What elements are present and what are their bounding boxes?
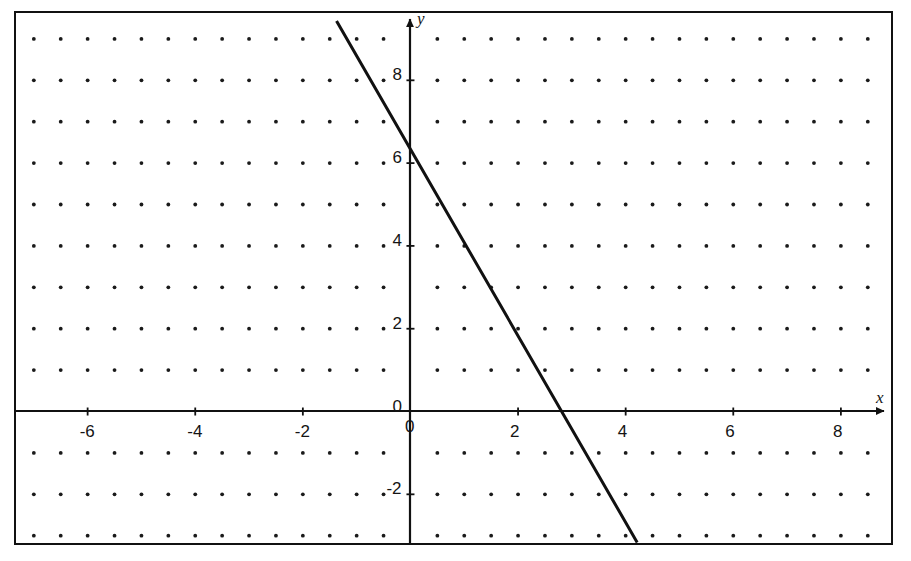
grid-dot	[839, 368, 843, 372]
grid-dot	[328, 37, 332, 41]
grid-dot	[839, 161, 843, 165]
grid-dot	[247, 534, 251, 538]
grid-dot	[274, 78, 278, 82]
grid-dot	[651, 78, 655, 82]
grid-dot	[543, 534, 547, 538]
grid-dot	[220, 78, 224, 82]
grid-dot	[785, 327, 789, 331]
grid-dot	[328, 120, 332, 124]
grid-dot	[59, 492, 63, 496]
grid-dot	[274, 327, 278, 331]
grid-dot	[543, 244, 547, 248]
grid-dot	[489, 203, 493, 207]
grid-dot	[731, 451, 735, 455]
grid-dot	[651, 368, 655, 372]
grid-dot	[435, 285, 439, 289]
grid-dot	[489, 451, 493, 455]
grid-dot	[193, 37, 197, 41]
grid-dot	[651, 244, 655, 248]
grid-dot	[113, 203, 117, 207]
grid-dot	[624, 78, 628, 82]
grid-dot	[140, 451, 144, 455]
grid-dot	[301, 120, 305, 124]
grid-dot	[113, 78, 117, 82]
grid-dot	[516, 78, 520, 82]
grid-dot	[812, 327, 816, 331]
grid-dot	[624, 244, 628, 248]
grid-dot	[435, 161, 439, 165]
grid-dot	[731, 203, 735, 207]
grid-dot	[704, 534, 708, 538]
grid-dot	[785, 451, 789, 455]
grid-dot	[86, 327, 90, 331]
grid-dot	[220, 37, 224, 41]
grid-dot	[516, 161, 520, 165]
grid-dot	[193, 161, 197, 165]
grid-dot	[570, 492, 574, 496]
grid-dot	[678, 327, 682, 331]
grid-dot	[32, 451, 36, 455]
grid-dot	[113, 161, 117, 165]
plotted-line-series	[337, 22, 636, 541]
grid-dot	[570, 244, 574, 248]
grid-dot	[32, 285, 36, 289]
grid-dot	[32, 78, 36, 82]
grid-dot	[59, 78, 63, 82]
grid-dot	[113, 37, 117, 41]
grid-dot	[382, 37, 386, 41]
grid-dot	[32, 327, 36, 331]
grid-dot	[59, 120, 63, 124]
grid-dot	[435, 203, 439, 207]
grid-dot	[597, 534, 601, 538]
grid-dot	[597, 78, 601, 82]
grid-dot	[435, 78, 439, 82]
grid-dot	[274, 534, 278, 538]
grid-dot	[651, 492, 655, 496]
grid-dot	[704, 37, 708, 41]
x-tick-label: -2	[295, 423, 310, 440]
grid-dot	[166, 78, 170, 82]
grid-dot	[59, 161, 63, 165]
grid-dot	[301, 78, 305, 82]
x-tick-label: 2	[510, 423, 519, 440]
grid-dot	[543, 78, 547, 82]
grid-dot	[624, 285, 628, 289]
grid-dot	[328, 285, 332, 289]
grid-dot	[59, 327, 63, 331]
grid-dot	[624, 327, 628, 331]
grid-dot	[382, 120, 386, 124]
grid-dot	[140, 161, 144, 165]
grid-dot	[651, 285, 655, 289]
grid-dot	[812, 78, 816, 82]
grid-dot	[839, 203, 843, 207]
grid-dot	[462, 78, 466, 82]
grid-dot	[193, 203, 197, 207]
grid-dot	[678, 37, 682, 41]
grid-dot	[86, 534, 90, 538]
grid-dot	[543, 368, 547, 372]
grid-dot	[247, 327, 251, 331]
grid-dot	[839, 37, 843, 41]
graph-canvas	[0, 0, 911, 561]
grid-dot	[678, 492, 682, 496]
grid-dot	[193, 78, 197, 82]
grid-dot	[731, 120, 735, 124]
grid-dot	[785, 203, 789, 207]
grid-dot	[166, 244, 170, 248]
grid-dot	[462, 451, 466, 455]
grid-dot	[86, 37, 90, 41]
grid-dot	[355, 534, 359, 538]
grid-dot	[382, 534, 386, 538]
grid-dot	[462, 203, 466, 207]
grid-dot	[839, 327, 843, 331]
grid-dot	[543, 285, 547, 289]
grid-dot	[489, 327, 493, 331]
grid-dot	[678, 285, 682, 289]
grid-dot	[624, 37, 628, 41]
grid-dot	[382, 451, 386, 455]
grid-dot	[839, 534, 843, 538]
grid-dot	[247, 78, 251, 82]
y-tick-label: 8	[392, 66, 401, 83]
grid-dot	[32, 244, 36, 248]
grid-dot	[113, 368, 117, 372]
